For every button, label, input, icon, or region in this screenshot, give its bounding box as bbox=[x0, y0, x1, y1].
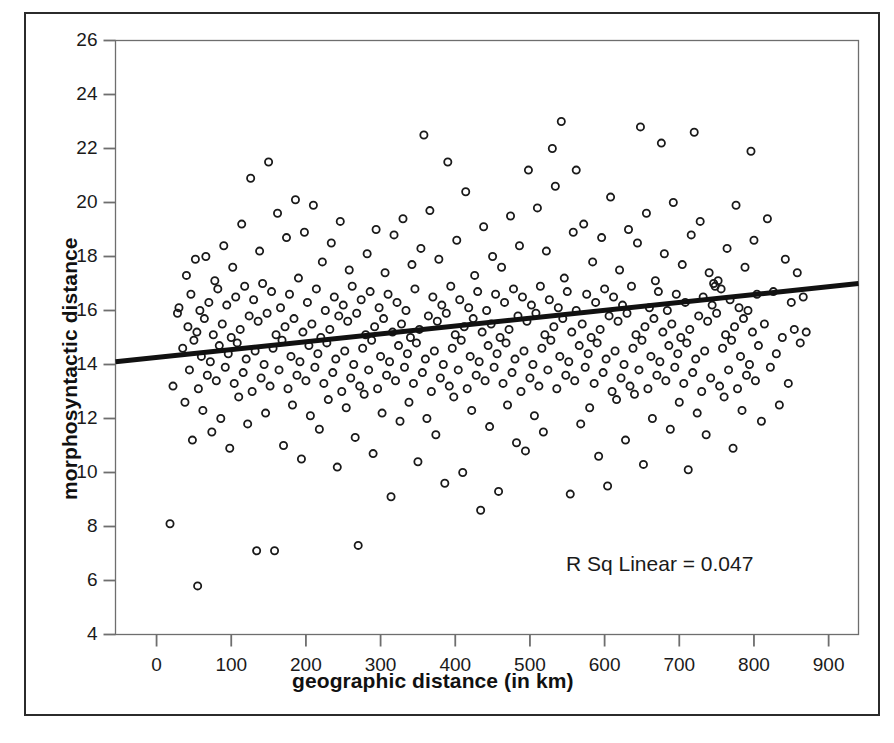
y-tick-label: 12 bbox=[50, 407, 98, 429]
y-tick-label: 24 bbox=[50, 83, 98, 105]
x-tick-label: 0 bbox=[117, 654, 197, 676]
x-tick-label: 800 bbox=[714, 654, 794, 676]
scatter-points bbox=[166, 118, 809, 590]
y-tick-label: 26 bbox=[50, 29, 98, 51]
regression-line bbox=[116, 284, 859, 362]
x-tick-label: 700 bbox=[639, 654, 719, 676]
x-tick-label: 900 bbox=[789, 654, 869, 676]
y-tick-label: 6 bbox=[50, 569, 98, 591]
x-tick-label: 400 bbox=[415, 654, 495, 676]
x-tick-label: 200 bbox=[266, 654, 346, 676]
figure-root: morphosyntactic distance geographic dist… bbox=[0, 0, 894, 743]
r-squared-annotation: R Sq Linear = 0.047 bbox=[566, 552, 753, 576]
scatter-plot-canvas bbox=[0, 0, 894, 743]
x-tick-label: 600 bbox=[565, 654, 645, 676]
y-tick-label: 16 bbox=[50, 299, 98, 321]
y-tick-label: 8 bbox=[50, 515, 98, 537]
y-tick-label: 4 bbox=[50, 623, 98, 645]
y-tick-label: 20 bbox=[50, 191, 98, 213]
y-tick-label: 14 bbox=[50, 353, 98, 375]
x-tick-label: 500 bbox=[490, 654, 570, 676]
y-tick-label: 22 bbox=[50, 137, 98, 159]
y-tick-label: 10 bbox=[50, 461, 98, 483]
y-tick-label: 18 bbox=[50, 245, 98, 267]
x-tick-label: 100 bbox=[191, 654, 271, 676]
x-tick-label: 300 bbox=[341, 654, 421, 676]
